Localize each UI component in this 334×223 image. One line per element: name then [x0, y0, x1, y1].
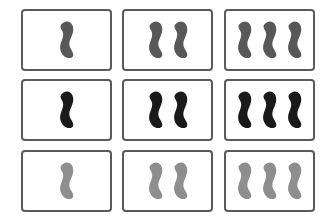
squiggle-icon: [171, 161, 190, 201]
card-board: [0, 0, 334, 223]
set-card[interactable]: [224, 79, 315, 141]
squiggle-icon: [235, 90, 254, 130]
set-card[interactable]: [21, 9, 112, 71]
squiggle-icon: [235, 20, 254, 60]
squiggle-icon: [285, 90, 304, 130]
set-card[interactable]: [224, 150, 315, 212]
squiggle-icon: [260, 20, 279, 60]
squiggle-icon: [260, 161, 279, 201]
squiggle-icon: [146, 20, 165, 60]
set-card[interactable]: [122, 150, 213, 212]
squiggle-icon: [235, 161, 254, 201]
set-card[interactable]: [224, 9, 315, 71]
squiggle-icon: [260, 90, 279, 130]
squiggle-icon: [171, 20, 190, 60]
squiggle-icon: [57, 20, 76, 60]
squiggle-icon: [146, 161, 165, 201]
set-card[interactable]: [122, 9, 213, 71]
squiggle-icon: [285, 20, 304, 60]
squiggle-icon: [171, 90, 190, 130]
set-card[interactable]: [122, 79, 213, 141]
squiggle-icon: [146, 90, 165, 130]
squiggle-icon: [57, 161, 76, 201]
set-card[interactable]: [21, 150, 112, 212]
set-card[interactable]: [21, 79, 112, 141]
squiggle-icon: [285, 161, 304, 201]
squiggle-icon: [57, 90, 76, 130]
